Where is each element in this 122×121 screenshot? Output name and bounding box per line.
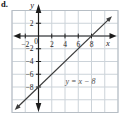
x-tick-label: 2 (50, 40, 54, 49)
y-tick-label: −8 (26, 83, 34, 92)
x-axis-left-arrow-icon (14, 33, 21, 39)
y-axis-down-arrow-icon (36, 103, 42, 112)
x-tick-label: 4 (63, 40, 67, 49)
exercise-graph-panel: d. −224682−2−4−6−8 0 x y y = x − 8 (0, 0, 122, 121)
x-axis-label: x (105, 38, 110, 48)
origin-label: 0 (34, 37, 38, 46)
coordinate-plane-graph: −224682−2−4−6−8 0 x y y = x − 8 (0, 0, 122, 121)
y-tick-label: 2 (30, 19, 34, 28)
y-tick-label: −4 (26, 57, 34, 66)
y-axis-label: y (29, 0, 34, 10)
x-axis-right-arrow-icon (110, 33, 117, 39)
y-tick-label: −6 (26, 70, 34, 79)
equation-label: y = x − 8 (65, 77, 96, 86)
x-tick-label: 8 (90, 40, 94, 49)
y-tick-label: −2 (26, 44, 34, 53)
y-axis-up-arrow-icon (36, 4, 42, 13)
